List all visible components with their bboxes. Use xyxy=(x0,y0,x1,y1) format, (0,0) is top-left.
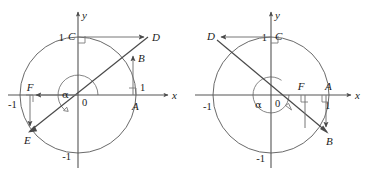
terminal-ray-line xyxy=(30,37,148,131)
origin-label: 0 xyxy=(82,97,87,108)
point-label-B: B xyxy=(138,52,145,64)
tick-y-positive-one: 1 xyxy=(59,32,64,43)
tick-y-negative-one: -1 xyxy=(62,151,71,162)
tick-y-negative-one: -1 xyxy=(256,153,265,164)
point-label-C: C xyxy=(68,30,76,42)
angle-alpha-arc-arrowhead xyxy=(64,107,69,111)
x-axis-label: x xyxy=(171,89,177,101)
tick-x-negative-one: -1 xyxy=(203,101,212,112)
point-label-A: A xyxy=(324,80,332,92)
point-label-F: F xyxy=(26,81,34,93)
point-label-D: D xyxy=(206,30,215,42)
right-diagram-panel: x y 0 1 1 -1 -1 C D B A xyxy=(189,0,378,179)
terminal-ray-line xyxy=(217,40,327,132)
y-axis-label: y xyxy=(81,9,87,21)
right-diagram-svg: x y 0 1 1 -1 -1 C D B A xyxy=(189,0,378,179)
point-label-F: F xyxy=(297,80,305,92)
left-diagram-panel: x y 0 1 1 -1 -1 C D xyxy=(0,0,189,179)
point-label-C: C xyxy=(275,30,283,42)
point-label-B: B xyxy=(326,135,333,147)
tick-x-negative-one: -1 xyxy=(8,99,17,110)
angle-alpha-arc-arrowhead xyxy=(286,103,292,110)
point-label-A: A xyxy=(131,100,139,112)
x-axis-label: x xyxy=(354,89,360,101)
point-label-D: D xyxy=(151,31,160,43)
figure-root: x y 0 1 1 -1 -1 C D xyxy=(0,0,378,179)
angle-alpha-label: α xyxy=(255,99,262,110)
origin-label: 0 xyxy=(275,98,280,109)
left-diagram-svg: x y 0 1 1 -1 -1 C D xyxy=(0,0,189,179)
point-label-E: E xyxy=(23,134,31,146)
angle-alpha-label: α xyxy=(62,89,69,100)
tick-x-positive-one: 1 xyxy=(140,82,145,93)
y-axis-label: y xyxy=(274,9,280,21)
